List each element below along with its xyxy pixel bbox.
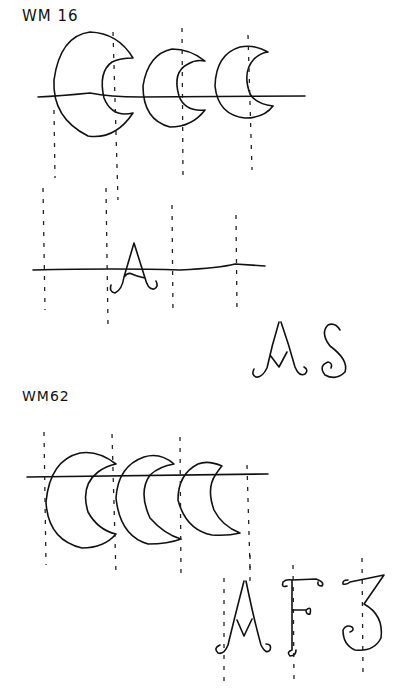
wm62-crescent-2	[116, 456, 181, 544]
monogram-letter-a	[253, 322, 307, 377]
wm16-baseline	[38, 93, 305, 97]
wm16-baseline-2	[33, 264, 265, 270]
wm62-crescent-3	[178, 462, 240, 535]
af3-letter-f	[283, 579, 323, 656]
monogram-letter-s	[322, 324, 346, 377]
crescent-3	[215, 46, 273, 118]
wm62-crescent-1	[46, 452, 116, 548]
wm62-crescents	[27, 452, 268, 548]
crescent-1	[54, 32, 133, 137]
wm62-baseline	[27, 474, 268, 477]
monogram-as	[253, 322, 346, 377]
letter-a-small	[111, 243, 158, 293]
watermark-diagram	[0, 0, 409, 700]
wm16-crescents	[38, 32, 305, 137]
wm16-guides-upper	[54, 28, 252, 200]
monogram-af3	[216, 555, 384, 685]
wm62-guides	[44, 432, 250, 575]
wm16-a-row	[33, 188, 265, 325]
af3-digit-3	[343, 575, 384, 650]
crescent-2	[143, 49, 205, 127]
